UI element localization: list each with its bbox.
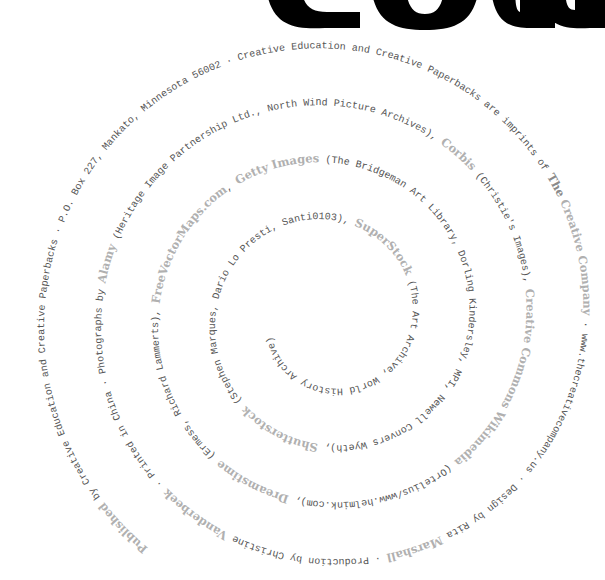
credit-brand-name: Shutterstock <box>237 403 319 455</box>
credit-brand-name: Alamy <box>94 242 119 286</box>
title-letters-fragment <box>265 0 605 30</box>
credit-brand-name: Dreamstime <box>213 457 290 506</box>
credit-brand-name: Creative Company <box>555 193 594 316</box>
credit-brand-name: Published <box>95 500 150 556</box>
credit-brand-name: Corbis <box>438 135 479 173</box>
credit-text-segment: · Production by Christine <box>225 530 388 567</box>
credit-text-segment: (The Art Archive, World History Archive) <box>264 273 420 397</box>
credit-brand-name: Creative Commons Wikimedia <box>451 288 537 470</box>
title-letter-shapes <box>265 0 605 30</box>
credit-text-segment: (Christie's Images), <box>469 166 533 290</box>
credit-brand-name: Getty Images <box>232 151 319 187</box>
spiral-credits-text: Published by Creative Education and Crea… <box>36 40 594 567</box>
credit-brand-name: SuperStock <box>353 215 417 278</box>
credit-text-segment: (Ortelius/www.helmink.com), <box>287 459 458 510</box>
credit-text-segment: (Stephen Marques, Dario Lo Presti, Santi… <box>207 211 357 411</box>
credit-text-segment: (The Bridgeman Art Library, Dorling Kind… <box>317 154 477 453</box>
credit-brand-name: Marshall <box>385 533 445 565</box>
credit-brand-name: Vanderbeek <box>159 486 231 544</box>
